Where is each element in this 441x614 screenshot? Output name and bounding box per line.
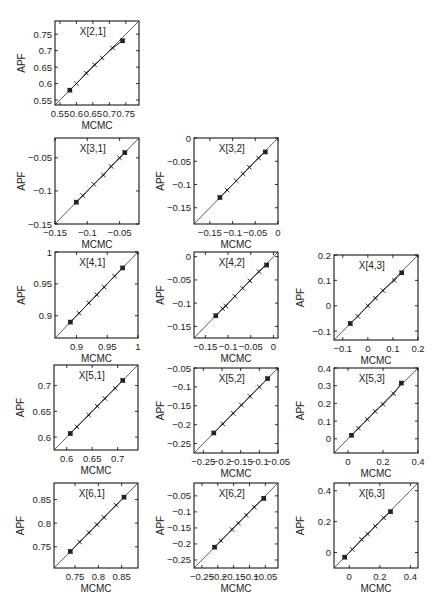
y-axis-label: APF xyxy=(295,516,306,535)
x-tick-label: 0.4 xyxy=(404,571,417,582)
y-tick-label: 0 xyxy=(326,547,331,558)
x-axis-label: MCMC xyxy=(360,583,391,594)
panel-title: X[6,3] xyxy=(359,488,385,499)
data-point-marker xyxy=(342,555,347,560)
y-tick-label: 0.2 xyxy=(318,516,331,527)
x-tick-label: 0 xyxy=(347,571,352,582)
data-point-marker xyxy=(388,509,393,514)
y-tick-label: 0.4 xyxy=(318,485,331,496)
x-tick-label: 0.2 xyxy=(373,571,386,582)
